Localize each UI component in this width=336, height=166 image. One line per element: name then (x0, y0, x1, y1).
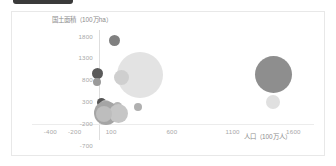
y-tick-label: 800 (59, 76, 93, 83)
bubble-point-6 (255, 56, 292, 93)
bubble-point-1 (109, 35, 120, 46)
x-tick-label: 1100 (213, 128, 253, 135)
bubble-point-7 (266, 95, 280, 109)
window-title-bar (13, 0, 73, 4)
y-tick-label: 1300 (59, 54, 93, 61)
plot-area: 国土面積（100万ha） 人口（100万人） 18001300800300-20… (12, 12, 326, 157)
y-tick-label: -200 (59, 120, 93, 127)
y-tick-label: 300 (59, 98, 93, 105)
y-tick-label: -700 (59, 142, 93, 149)
x-tick-label: -200 (55, 128, 95, 135)
x-tick-label: 100 (91, 128, 131, 135)
y-axis-title: 国土面積（100万ha） (52, 15, 112, 24)
screenshot-root: 国土面積（100万ha） 人口（100万人） 18001300800300-20… (0, 0, 336, 166)
x-tick-label: 1600 (273, 128, 313, 135)
y-tick-label: 1800 (59, 33, 93, 40)
x-tick-label: 600 (152, 128, 192, 135)
bubble-point-11 (134, 103, 142, 111)
chart-frame: 国土面積（100万ha） 人口（100万人） 18001300800300-20… (11, 11, 325, 156)
